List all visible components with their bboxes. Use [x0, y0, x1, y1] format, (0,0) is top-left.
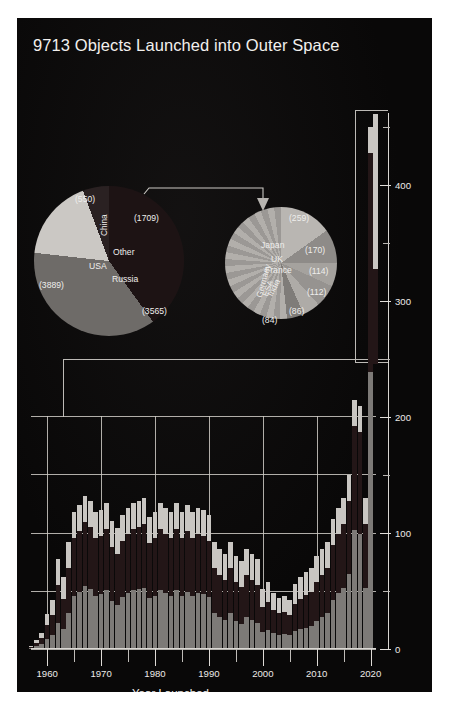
x-tick — [47, 649, 48, 666]
bar-segment — [93, 538, 98, 595]
bar-segment — [137, 527, 142, 589]
bar-segment — [271, 610, 276, 633]
bar — [45, 614, 50, 649]
chart-title: 9713 Objects Launched into Outer Space — [33, 36, 340, 55]
x-tick — [371, 649, 372, 666]
bar-segment — [131, 590, 136, 649]
bar-segment — [341, 498, 346, 524]
bar-segment — [174, 529, 179, 590]
bar — [201, 510, 206, 649]
bar — [325, 542, 330, 649]
bar-segment — [277, 613, 282, 634]
bar-segment — [336, 534, 341, 593]
bar-segment — [358, 534, 363, 649]
x-tick-label: 2020 — [360, 668, 381, 679]
bar-segment — [56, 623, 61, 649]
bar-segment — [358, 406, 363, 432]
bar — [293, 584, 298, 649]
bar-series — [31, 104, 376, 649]
bar-segment — [260, 607, 265, 632]
bar-segment — [169, 512, 174, 538]
bar — [104, 503, 109, 649]
figure-root: 9713 Objects Launched into Outer Space (… — [0, 0, 449, 710]
bar-segment — [250, 620, 255, 649]
x-tick-minor — [290, 649, 291, 662]
bar-segment — [163, 534, 168, 593]
bar — [320, 549, 325, 649]
x-tick-minor — [128, 649, 129, 662]
bar-segment — [282, 612, 287, 634]
bar-segment — [142, 524, 147, 587]
y-tick-minor — [383, 243, 390, 244]
bar — [207, 515, 212, 650]
bar — [180, 512, 185, 649]
x-tick — [155, 649, 156, 666]
bar-segment — [72, 538, 77, 595]
bar-segment — [320, 549, 325, 575]
bar-segment — [45, 614, 50, 624]
bar — [271, 593, 276, 649]
bar-segment — [190, 512, 195, 538]
bar-segment — [325, 542, 330, 568]
bar-segment — [142, 588, 147, 649]
bar-segment — [293, 631, 298, 649]
bar — [115, 528, 120, 649]
bar-segment — [158, 529, 163, 590]
y-axis-line — [388, 113, 389, 649]
bar-segment — [287, 600, 292, 615]
bar — [217, 549, 222, 649]
bar — [110, 521, 115, 649]
bar-segment — [234, 556, 239, 582]
x-tick-label: 1970 — [90, 668, 111, 679]
bar-segment — [352, 426, 357, 531]
bar-segment — [250, 580, 255, 620]
bar-segment — [368, 153, 373, 372]
bar-segment — [331, 545, 336, 600]
bar-segment — [260, 632, 265, 649]
bar-segment — [320, 575, 325, 617]
bar-segment — [180, 538, 185, 595]
bar-segment — [228, 542, 233, 568]
bar-segment — [212, 568, 217, 613]
bar-segment — [271, 633, 276, 649]
x-tick-minor — [236, 649, 237, 662]
bar — [185, 505, 190, 649]
bar — [126, 508, 131, 649]
x-tick-minor — [74, 649, 75, 662]
bar — [352, 400, 357, 649]
bar-segment — [293, 604, 298, 631]
bar-segment — [314, 621, 319, 649]
bar-segment — [217, 549, 222, 575]
bar — [368, 127, 373, 649]
bar-segment — [190, 538, 195, 595]
bar — [196, 508, 201, 649]
bar — [190, 512, 195, 649]
y-tick-label: 400 — [395, 180, 411, 191]
bar-segment — [255, 623, 260, 649]
bar-segment — [287, 615, 292, 635]
bar-segment — [217, 575, 222, 617]
bar-segment — [158, 503, 163, 529]
bar-segment — [271, 593, 276, 610]
bar-segment — [110, 601, 115, 649]
bar-segment — [277, 635, 282, 649]
bar-segment — [201, 594, 206, 649]
bar-segment — [45, 625, 50, 640]
y-tick — [380, 417, 391, 418]
bar — [223, 554, 228, 649]
bar-segment — [120, 515, 125, 541]
bar-segment — [331, 519, 336, 545]
bar-segment — [126, 534, 131, 593]
bar — [255, 559, 260, 649]
bar-segment — [368, 127, 373, 153]
bar-segment — [325, 613, 330, 649]
bar — [298, 577, 303, 649]
bar-segment — [358, 432, 363, 534]
bar-segment — [314, 582, 319, 621]
bar-segment — [99, 536, 104, 594]
bar-segment — [104, 503, 109, 529]
x-tick-label: 1990 — [198, 668, 219, 679]
bar — [228, 542, 233, 649]
bar-segment — [234, 621, 239, 649]
bar — [174, 503, 179, 649]
